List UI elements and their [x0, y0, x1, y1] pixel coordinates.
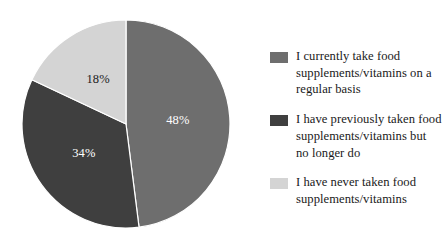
- legend-label-2: I have previously taken food supplements…: [296, 111, 442, 161]
- pie-slice-value-label-3: 18%: [86, 72, 110, 86]
- legend-swatch-2: [270, 115, 288, 126]
- legend-swatch-1: [270, 52, 288, 63]
- legend-item-2[interactable]: I have previously taken food supplements…: [270, 111, 442, 161]
- pie-chart-graphic: 48%34%18%: [22, 20, 230, 228]
- pie-slice-value-label-2: 34%: [72, 146, 96, 160]
- legend-label-1: I currently take food supplements/vitami…: [296, 48, 442, 98]
- chart-legend: I currently take food supplements/vitami…: [270, 48, 442, 208]
- legend-swatch-3: [270, 178, 288, 189]
- legend-item-3[interactable]: I have never taken food supplements/vita…: [270, 174, 442, 207]
- pie-slice-value-label-1: 48%: [166, 113, 190, 127]
- legend-item-1[interactable]: I currently take food supplements/vitami…: [270, 48, 442, 98]
- pie-chart-figure: 48%34%18% I currently take food suppleme…: [0, 0, 446, 247]
- legend-label-3: I have never taken food supplements/vita…: [296, 174, 442, 207]
- pie-svg: 48%34%18%: [22, 20, 230, 228]
- pie-slice-group: [22, 20, 230, 228]
